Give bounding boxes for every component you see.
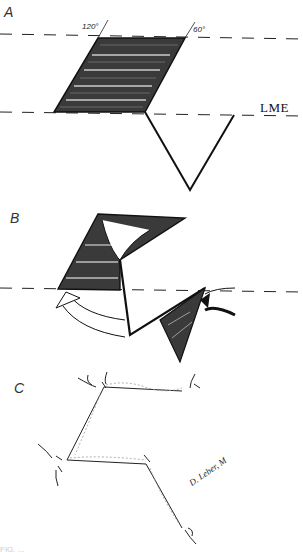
- panel-a: A 120° 60° LME: [0, 0, 303, 200]
- angle-label-120: 120°: [82, 22, 99, 31]
- angle-label-60: 60°: [193, 25, 205, 34]
- caption-fragment: FIG. ...: [0, 545, 24, 552]
- panel-b: B: [0, 200, 303, 370]
- panel-a-drawing: [0, 0, 303, 200]
- panel-c: C D. Leber, M: [0, 360, 303, 552]
- lme-label: LME: [260, 100, 289, 116]
- panel-c-drawing: [0, 360, 303, 552]
- panel-b-drawing: [0, 200, 303, 370]
